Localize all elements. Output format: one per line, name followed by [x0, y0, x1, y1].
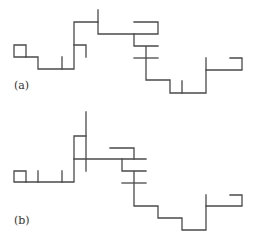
figure-label-b: (b) [14, 214, 30, 227]
walk-b-bracket [110, 148, 134, 159]
walk-diagram-b [14, 112, 242, 230]
walk-b-start-loop [14, 171, 26, 182]
walk-a-branch-hook [74, 45, 86, 57]
walk-diagram-a [14, 10, 242, 93]
walk-b-descent [122, 159, 242, 230]
walk-a-descent [134, 34, 242, 93]
figure-label-a: (a) [14, 79, 29, 92]
walk-a-start-loop [14, 45, 26, 57]
diagram-canvas [0, 0, 253, 244]
